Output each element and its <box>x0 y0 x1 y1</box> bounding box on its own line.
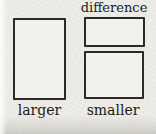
difference-rectangle <box>84 17 145 47</box>
comparison-diagram: difference larger smaller <box>0 0 156 134</box>
smaller-rectangle <box>84 51 144 99</box>
smaller-label: smaller <box>82 102 144 119</box>
larger-rectangle <box>13 18 66 100</box>
difference-label: difference <box>78 0 150 15</box>
larger-label: larger <box>13 102 66 119</box>
